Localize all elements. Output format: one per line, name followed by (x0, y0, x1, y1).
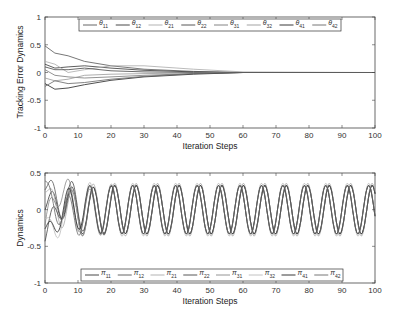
x-tick-label: 30 (140, 131, 149, 140)
y-tick-label: 0.5 (30, 41, 42, 50)
x-tick-label: 0 (43, 286, 48, 295)
x-tick-label: 70 (272, 286, 281, 295)
y-tick-label: 0.5 (30, 169, 42, 178)
figure: 0102030405060708090100 -1-0.500.51 Itera… (0, 0, 399, 322)
x-tick-label: 10 (74, 286, 83, 295)
x-tick-label: 100 (368, 286, 382, 295)
y-tick-label: -0.5 (27, 96, 41, 105)
x-tick-label: 80 (305, 286, 314, 295)
x-tick-label: 50 (206, 131, 215, 140)
y-tick-label: -0.5 (27, 242, 41, 251)
x-tick-label: 90 (338, 131, 347, 140)
y-tick-label: 0 (37, 206, 42, 215)
x-tick-label: 30 (140, 286, 149, 295)
x-tick-label: 40 (173, 131, 182, 140)
x-tick-label: 0 (43, 131, 48, 140)
tracking-error-chart: 0102030405060708090100 -1-0.500.51 Itera… (15, 13, 382, 151)
legend-bottom: π11π12π21π22π31π32π41π42 (81, 269, 343, 281)
x-axis-label-bottom: Iteration Steps (183, 296, 238, 306)
y-tick-label: 0 (37, 69, 42, 78)
y-tick-label: -1 (34, 279, 42, 288)
y-tick-label: -1 (34, 124, 42, 133)
x-axis-label-top: Iteration Steps (183, 141, 238, 151)
x-tick-label: 20 (107, 286, 116, 295)
x-tick-label: 80 (305, 131, 314, 140)
x-tick-label: 10 (74, 131, 83, 140)
x-tick-label: 60 (239, 286, 248, 295)
y-axis-label-top: Tracking Error Dynamics (15, 25, 25, 118)
dynamics-chart: 0102030405060708090100 -1-0.500.5 Iterat… (15, 169, 382, 306)
x-tick-label: 100 (368, 131, 382, 140)
x-tick-label: 20 (107, 131, 116, 140)
x-tick-label: 40 (173, 286, 182, 295)
x-tick-label: 60 (239, 131, 248, 140)
x-tick-label: 90 (338, 286, 347, 295)
legend-top: θ11θ12θ21θ22θ31θ32θ41θ42 (79, 19, 341, 31)
x-tick-label: 50 (206, 286, 215, 295)
y-tick-label: 1 (37, 13, 42, 22)
y-axis-label-bottom: Dynamics (15, 209, 25, 246)
x-tick-label: 70 (272, 131, 281, 140)
